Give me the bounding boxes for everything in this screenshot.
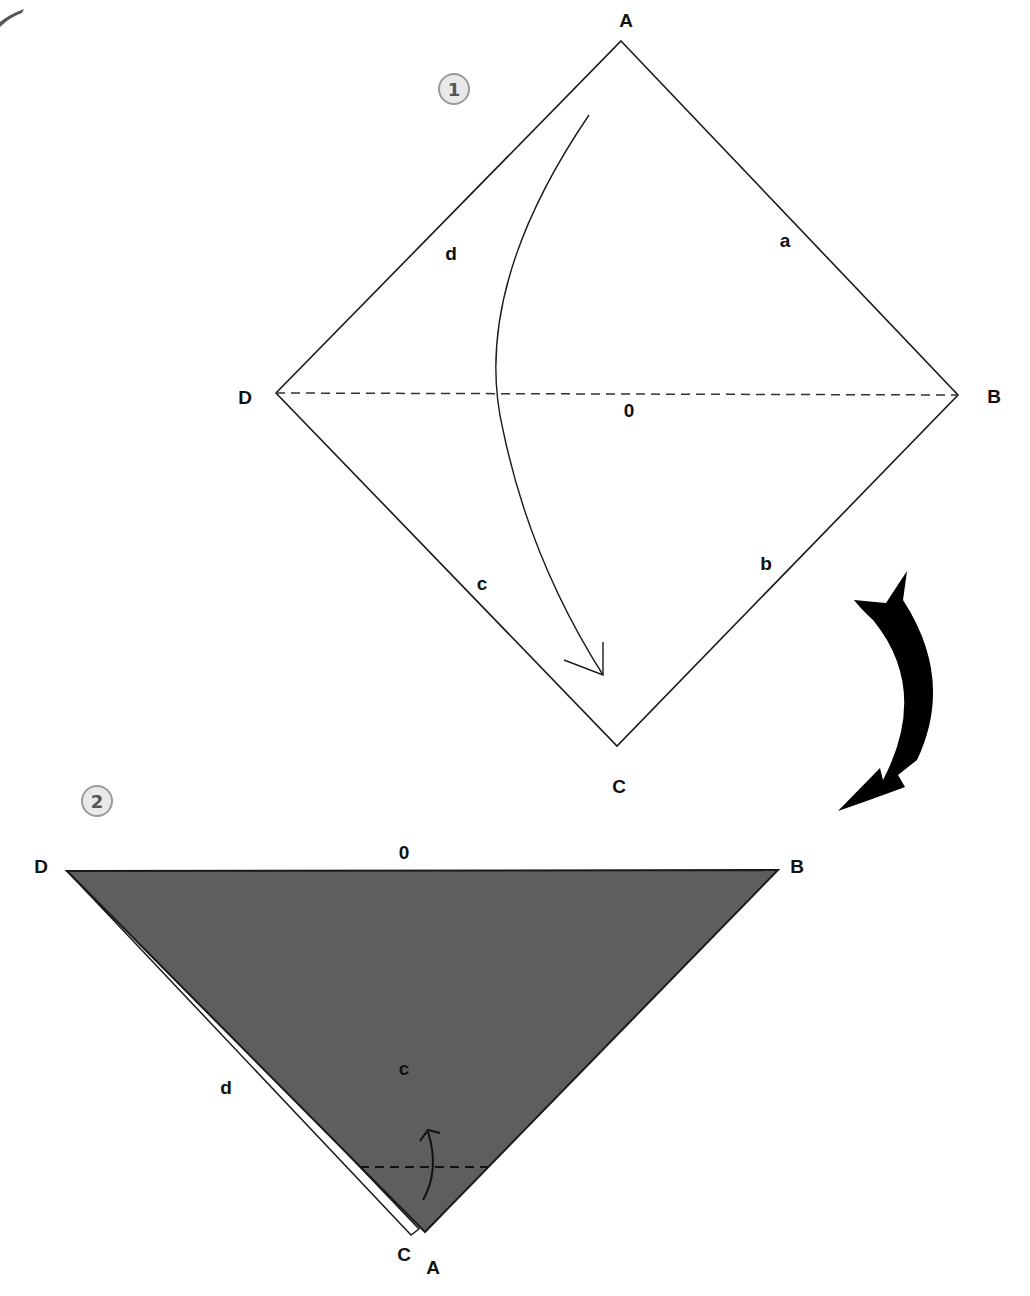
- corner-label-c: C: [612, 777, 626, 796]
- diagram-canvas: [0, 0, 1030, 1296]
- corner-label-b: B: [987, 387, 1001, 406]
- edge-label-d: d: [220, 1078, 232, 1097]
- folded-triangle: [67, 870, 778, 1232]
- step2-diagram: [67, 870, 778, 1235]
- face-label-c: c: [399, 1059, 410, 1078]
- corner-label-b: B: [790, 857, 804, 876]
- step-number: 1: [448, 79, 461, 100]
- corner-swoosh: [0, 9, 24, 27]
- step-number: 2: [91, 791, 104, 812]
- corner-label-d: D: [238, 388, 252, 407]
- corner-label-a: A: [619, 11, 633, 30]
- step1-diagram: [276, 41, 958, 746]
- center-label-0: 0: [624, 401, 635, 420]
- transition-arrow-icon: [838, 571, 933, 811]
- corner-label-c: C: [397, 1245, 411, 1264]
- square-paper: [276, 41, 958, 746]
- edge-label-c: c: [477, 574, 488, 593]
- edge-label-0: 0: [399, 843, 410, 862]
- edge-label-a: a: [780, 231, 791, 250]
- step-badge-1: 1: [438, 73, 470, 105]
- edge-label-d: d: [445, 244, 457, 263]
- step-badge-2: 2: [81, 785, 113, 817]
- edge-label-b: b: [760, 554, 772, 573]
- corner-label-d: D: [34, 857, 48, 876]
- corner-label-a: A: [426, 1258, 440, 1277]
